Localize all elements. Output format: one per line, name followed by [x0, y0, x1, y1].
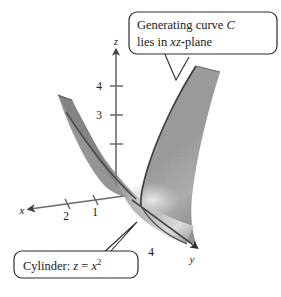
callout-generating-curve-line1: Generating curve C	[137, 18, 236, 32]
z-tick-label-4: 4	[96, 80, 102, 92]
y-axis-label: y	[189, 253, 195, 265]
parabolic-cylinder-figure: 4 3 z 2 1 x	[0, 0, 281, 297]
x-tick-label-1: 1	[92, 206, 98, 218]
z-tick-label-3: 3	[96, 109, 102, 121]
callout-cylinder-equation-text: Cylinder: z = x2	[23, 257, 101, 273]
y-tick-label-4: 4	[148, 246, 154, 258]
z-axis-label: z	[113, 35, 119, 47]
x-axis-label: x	[19, 204, 25, 216]
x-tick-label-2: 2	[63, 210, 69, 222]
callout-generating-curve-line2: lies in xz-plane	[137, 35, 212, 49]
